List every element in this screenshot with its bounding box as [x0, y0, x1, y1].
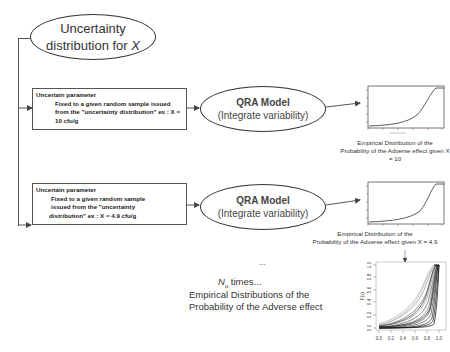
- uncertainty-line2: distribution for X: [46, 37, 140, 54]
- uncertain-parameter-box-1: Uncertain parameter Fixed to a given ran…: [32, 88, 187, 130]
- param-line: distribution" ex : X = 4.9 cfu/g: [33, 212, 186, 221]
- x-tick: 1.0: [436, 336, 443, 341]
- y-tick: 0.8: [367, 273, 372, 280]
- uncertainty-distribution-node: Uncertainty distribution for X: [30, 14, 156, 60]
- caption-1: Empirical Distribution of the Probabilit…: [340, 139, 450, 163]
- model-subtitle: (Integrate variability): [218, 207, 309, 220]
- model-title: QRA Model: [236, 194, 290, 207]
- caption-2: Empirical Distribution of the Probabilit…: [300, 230, 450, 246]
- x-tick: 0.8: [424, 336, 431, 341]
- y-axis-label: F(x): [360, 292, 365, 300]
- ellipsis: ...: [259, 258, 266, 267]
- x-tick: 0.2: [388, 336, 395, 341]
- y-tick: 0.4: [367, 298, 372, 305]
- param-title: Uncertain parameter: [33, 89, 186, 100]
- x-tick: 0.0: [376, 336, 383, 341]
- cdf-chart-1: [362, 85, 446, 135]
- y-tick: 0.0: [367, 324, 372, 331]
- x-tick: 0.6: [412, 336, 419, 341]
- qra-model-node-2: QRA Model (Integrate variability): [200, 184, 326, 230]
- qra-model-node-1: QRA Model (Integrate variability): [200, 86, 326, 132]
- y-tick: 1.0: [367, 261, 372, 268]
- uncertain-parameter-box-2: Uncertain parameter Fixed to a given ran…: [32, 183, 187, 225]
- y-tick: 0.2: [367, 311, 372, 318]
- summary-label: Empirical Distributions of the Probabili…: [189, 289, 322, 313]
- param-line: Fixed to a given random sample: [33, 195, 186, 204]
- param-line: Fixed to a given random sample issued: [33, 100, 186, 109]
- param-line: from the "uncertainty distribution" ex :…: [33, 108, 186, 117]
- cdf-chart-2: [362, 181, 446, 231]
- uncertainty-line1: Uncertainty: [60, 20, 126, 37]
- y-tick: 0.6: [367, 286, 372, 293]
- param-title: Uncertain parameter: [33, 184, 186, 195]
- model-title: QRA Model: [236, 96, 290, 109]
- param-line: 10 cfu/g: [33, 117, 186, 126]
- model-subtitle: (Integrate variability): [218, 109, 309, 122]
- overlaid-cdf-chart: 0.0 0.2 0.4 0.6 0.8 1.0 0.0 0.2 0.4 0.6 …: [360, 258, 450, 348]
- x-tick: 0.4: [400, 336, 407, 341]
- param-line: issued from the "uncertainty: [33, 203, 186, 212]
- repeat-label: Nu times...: [218, 276, 261, 289]
